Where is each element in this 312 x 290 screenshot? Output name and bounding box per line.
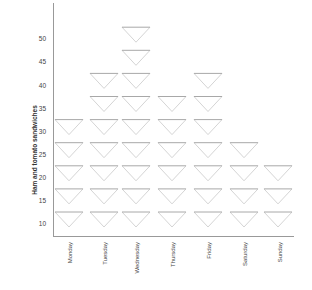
triangle-marker bbox=[122, 189, 150, 204]
triangle-marker bbox=[194, 97, 222, 112]
x-label-saturday: Saturday bbox=[240, 242, 248, 282]
triangle-marker bbox=[122, 143, 150, 158]
triangle-marker bbox=[122, 212, 150, 227]
triangle-marker bbox=[230, 166, 258, 181]
x-label-sunday: Sunday bbox=[275, 242, 283, 282]
triangle-marker bbox=[90, 212, 118, 227]
triangle-marker bbox=[122, 120, 150, 135]
x-label-wednesday: Wednesday bbox=[132, 242, 140, 282]
triangle-marker bbox=[194, 143, 222, 158]
triangle-marker bbox=[230, 189, 258, 204]
triangle-marker bbox=[90, 97, 118, 112]
triangle-marker bbox=[122, 97, 150, 112]
triangle-marker bbox=[158, 97, 186, 112]
triangle-marker bbox=[122, 73, 150, 88]
triangle-marker bbox=[90, 143, 118, 158]
triangle-marker bbox=[122, 27, 150, 42]
triangle-marker bbox=[90, 73, 118, 88]
triangle-marker bbox=[158, 189, 186, 204]
pictogram-chart: Ham and tomato sandwiches 50 45 40 35 30… bbox=[0, 0, 312, 290]
triangle-marker bbox=[158, 120, 186, 135]
x-label-friday: Friday bbox=[204, 242, 212, 282]
triangle-marker bbox=[158, 166, 186, 181]
triangle-marker bbox=[90, 120, 118, 135]
triangle-marker bbox=[158, 143, 186, 158]
triangle-stacks bbox=[0, 0, 312, 290]
triangle-marker bbox=[230, 212, 258, 227]
triangle-marker bbox=[264, 166, 292, 181]
triangle-marker bbox=[55, 189, 83, 204]
triangle-marker bbox=[194, 73, 222, 88]
triangle-marker bbox=[55, 120, 83, 135]
triangle-marker bbox=[264, 189, 292, 204]
triangle-marker bbox=[158, 212, 186, 227]
x-label-tuesday: Tuesday bbox=[100, 242, 108, 282]
triangle-marker bbox=[55, 166, 83, 181]
triangle-marker bbox=[264, 212, 292, 227]
triangle-marker bbox=[230, 143, 258, 158]
triangle-marker bbox=[90, 166, 118, 181]
triangle-marker bbox=[194, 166, 222, 181]
x-label-monday: Monday bbox=[65, 242, 73, 282]
triangle-marker bbox=[122, 166, 150, 181]
triangle-marker bbox=[90, 189, 118, 204]
triangle-marker bbox=[55, 143, 83, 158]
triangle-marker bbox=[194, 212, 222, 227]
triangle-marker bbox=[194, 189, 222, 204]
triangle-marker bbox=[122, 50, 150, 65]
triangle-marker bbox=[194, 120, 222, 135]
x-label-thursday: Thursday bbox=[168, 242, 176, 282]
triangle-marker bbox=[55, 212, 83, 227]
